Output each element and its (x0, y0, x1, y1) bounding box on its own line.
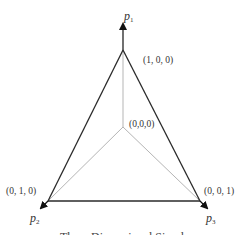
axis-label-p2: p2 (29, 211, 40, 226)
simplex-diagram: p1 p2 p3 (1, 0, 0) (0, 1, 0) (0, 0, 1) (… (0, 0, 242, 235)
arrow-down-left-icon (41, 201, 48, 208)
vertex-label-origin: (0,0,0) (129, 119, 154, 130)
arrow-down-right-icon (200, 201, 207, 208)
axis-lines (48, 50, 200, 201)
axis-label-p3: p3 (205, 211, 216, 226)
vertex-label-right: (0, 0, 1) (204, 186, 234, 197)
axis-label-p1: p1 (123, 9, 134, 24)
edge-top-left (48, 50, 123, 201)
diagram-caption: Three Dimensional Simplex (60, 230, 195, 235)
axis-line-p3 (123, 127, 200, 201)
axis-line-p2 (48, 127, 123, 201)
vertex-label-top: (1, 0, 0) (143, 55, 173, 66)
vertex-label-left: (0, 1, 0) (6, 186, 36, 197)
